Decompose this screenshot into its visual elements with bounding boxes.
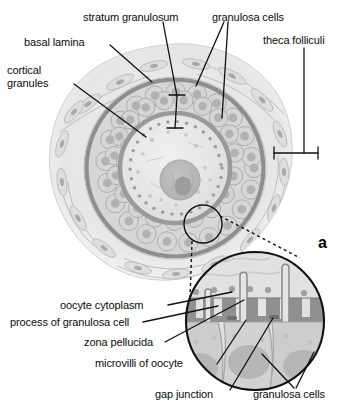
label-basal-lamina: basal lamina — [24, 36, 85, 49]
label-cortical-granules-line2: granules — [7, 77, 48, 90]
label-gap-junction: gap junction — [155, 388, 213, 401]
follicle-illustration — [0, 0, 346, 417]
label-cortical-granules-line1: cortical — [7, 64, 41, 77]
inset-granulosa-cells — [182, 322, 330, 390]
label-process-of-granulosa-cell: process of granulosa cell — [10, 316, 129, 329]
label-granulosa-cells-bottom: granulosa cells — [253, 388, 325, 401]
label-stratum-granulosum: stratum granulosum — [83, 11, 178, 24]
panel-letter-a: a — [318, 234, 327, 252]
label-oocyte-cytoplasm: oocyte cytoplasm — [60, 299, 143, 312]
label-microvilli-of-oocyte: microvilli of oocyte — [95, 357, 183, 370]
label-theca-folliculi: theca folliculi — [263, 34, 324, 47]
label-zona-pellucida: zona pellucida — [84, 336, 153, 349]
oocyte-nucleolus — [175, 177, 192, 196]
label-granulosa-cells-top: granulosa cells — [212, 11, 284, 24]
follicle-figure: stratum granulosum granulosa cells basal… — [0, 0, 346, 417]
